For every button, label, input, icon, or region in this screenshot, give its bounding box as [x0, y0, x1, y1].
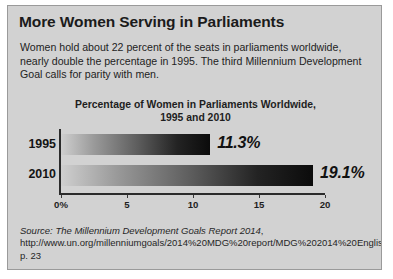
chart-plot-area: 1995 2010 11.3% 19.1% 0%5101520 — [8, 129, 382, 217]
x-tick-mark-15 — [259, 195, 260, 198]
x-tick-label-20: 20 — [320, 199, 331, 210]
bar-chart: Percentage of Women in Parliaments World… — [8, 99, 382, 217]
infographic-panel: More Women Serving in Parliaments Women … — [7, 5, 382, 270]
x-tick-mark-10 — [193, 195, 194, 198]
x-tick-label-10: 10 — [188, 199, 199, 210]
bar-1995 — [61, 134, 210, 155]
bar-value-2010: 19.1% — [320, 164, 364, 182]
chart-title-line-2: 1995 and 2010 — [38, 112, 353, 125]
source-prefix: Source: — [20, 225, 53, 236]
intro-paragraph: Women hold about 22 percent of the seats… — [20, 41, 372, 82]
page-title: More Women Serving in Parliaments — [19, 13, 369, 31]
x-tick-mark-0% — [61, 195, 62, 198]
source-note: Source: The Millennium Development Goals… — [20, 225, 376, 262]
category-label-2010: 2010 — [14, 167, 56, 181]
x-axis-line — [59, 193, 325, 195]
x-tick-label-0%: 0% — [54, 199, 68, 210]
x-tick-label-5: 5 — [124, 199, 129, 210]
category-label-1995: 1995 — [14, 137, 56, 151]
bar-2010 — [61, 165, 313, 186]
x-tick-label-15: 15 — [254, 199, 265, 210]
source-title: The Millennium Development Goals Report … — [55, 225, 260, 236]
bar-value-1995: 11.3% — [217, 134, 260, 152]
x-tick-mark-20 — [325, 195, 326, 198]
chart-title: Percentage of Women in Parliaments World… — [38, 99, 353, 124]
chart-title-line-1: Percentage of Women in Parliaments World… — [38, 99, 353, 112]
x-tick-mark-5 — [127, 195, 128, 198]
